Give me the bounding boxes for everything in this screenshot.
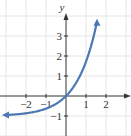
y-tick-label: 3	[57, 30, 63, 42]
x-tick-label: 1	[83, 98, 89, 110]
y-axis-label: y	[59, 1, 65, 13]
x-tick-label: 2	[103, 98, 109, 110]
y-tick-label: 2	[57, 50, 63, 62]
y-tick-label: −1	[50, 110, 62, 122]
graph: y−2−112−1123	[0, 0, 131, 136]
y-tick-label: 1	[57, 70, 63, 82]
x-tick-label: −2	[20, 98, 32, 110]
curve-end-arrow-icon	[94, 19, 101, 26]
x-axis-arrow-icon	[124, 94, 131, 99]
